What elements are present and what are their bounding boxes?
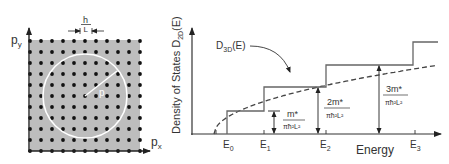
step-annotation-2: 2m* πħ²L² [324, 97, 350, 119]
px-label: px [151, 135, 162, 151]
radius-label: p [99, 87, 105, 98]
spacing-numerator: h [83, 15, 88, 25]
d2d-staircase [227, 42, 438, 134]
step-annotation-3: 3m* πħ²L² [383, 84, 408, 106]
svg-text:πħ²L²: πħ²L² [385, 99, 403, 106]
spacing-denominator: L [84, 25, 89, 34]
momentum-space-panel: p py px h L [11, 15, 162, 153]
y-axis-label: Density of States D2D(E) [170, 16, 184, 134]
energy-axis-label: Energy [356, 143, 394, 157]
density-of-states-panel: Density of States D2D(E) m* [170, 16, 441, 157]
svg-text:m*: m* [287, 109, 298, 119]
d3d-label: D3D(E) [216, 40, 246, 53]
svg-text:3m*: 3m* [386, 84, 403, 94]
energy-level-e3: E3 [410, 139, 421, 152]
py-label: py [11, 33, 22, 49]
d3d-pointer-arrow [250, 46, 290, 72]
energy-level-e0: E0 [223, 139, 234, 152]
energy-level-e1: E1 [260, 139, 271, 152]
step-annotation-1: m* πħ²L² [283, 109, 305, 130]
dos-diagram: p py px h L Density of States D2D(E) [0, 0, 449, 164]
svg-text:πħ²L²: πħ²L² [283, 123, 301, 130]
energy-level-e2: E2 [320, 139, 331, 152]
svg-text:2m*: 2m* [327, 97, 344, 107]
svg-text:πħ²L²: πħ²L² [326, 112, 344, 119]
d3d-curve [214, 66, 436, 135]
spacing-indicator: h L [68, 15, 104, 34]
